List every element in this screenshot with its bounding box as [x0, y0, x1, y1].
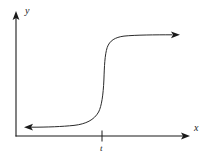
y-axis-label: y	[24, 5, 30, 16]
x-axis-tick-label-t: t	[100, 143, 103, 153]
sigmoid-figure-svg: y x t	[0, 0, 210, 159]
x-axis-label: x	[193, 122, 199, 133]
figure-container: y x t	[0, 0, 210, 159]
sigmoid-curve-path	[31, 35, 172, 127]
